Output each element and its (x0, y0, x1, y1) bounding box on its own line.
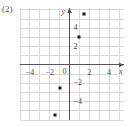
data-point (83, 13, 86, 16)
scatter-plot-area: −4−2024−4−224xy (20, 8, 124, 120)
data-point (53, 114, 56, 117)
data-point-layer (20, 8, 124, 120)
data-point (78, 36, 81, 39)
item-number-label: (2) (2, 4, 13, 14)
coordinate-plane-figure: (2) −4−2024−4−224xy (0, 0, 129, 127)
data-point (58, 86, 61, 89)
